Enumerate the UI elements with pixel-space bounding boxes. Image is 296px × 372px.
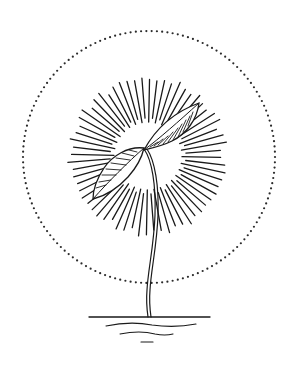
halo-dot <box>272 177 274 179</box>
halo-dot <box>269 119 271 121</box>
right-leaf <box>144 103 199 150</box>
halo-dot <box>80 262 82 264</box>
halo-dot <box>202 42 204 44</box>
halo-dot <box>119 279 121 281</box>
halo-dot <box>258 217 260 219</box>
halo-dot <box>250 82 252 84</box>
halo-dot <box>114 277 116 279</box>
halo-dot <box>135 31 137 33</box>
halo-dot <box>265 110 267 112</box>
sun-ray <box>151 194 154 230</box>
halo-dot <box>272 135 274 137</box>
halo-dot <box>211 265 213 267</box>
halo-dot <box>109 276 111 278</box>
halo-dot <box>53 74 55 76</box>
halo-dot <box>26 125 28 127</box>
halo-dot <box>22 161 24 163</box>
halo-dot <box>267 114 269 116</box>
ground-lines <box>89 317 210 342</box>
halo-dot <box>253 226 255 228</box>
halo-dot <box>56 70 58 72</box>
halo-dot <box>80 50 82 52</box>
halo-dot <box>243 74 245 76</box>
halo-dot <box>104 274 106 276</box>
halo-dot <box>273 166 275 168</box>
halo-dot <box>197 272 199 274</box>
halo-dot <box>23 172 25 174</box>
halo-dot <box>129 31 131 33</box>
halo-dot <box>85 47 87 49</box>
halo-dot <box>215 50 217 52</box>
halo-dot <box>26 187 28 189</box>
sun-ray <box>182 157 221 158</box>
halo-dot <box>182 35 184 37</box>
halo-dot <box>109 36 111 38</box>
halo-dot <box>29 197 31 199</box>
halo-dot <box>22 166 24 168</box>
halo-dot <box>68 59 70 61</box>
halo-dot <box>206 44 208 46</box>
halo-dot <box>269 192 271 194</box>
halo-dot <box>119 33 121 35</box>
halo-dot <box>23 140 25 142</box>
halo-dot <box>99 40 101 42</box>
halo-dot <box>267 197 269 199</box>
halo-dot <box>85 265 87 267</box>
halo-dot <box>124 32 126 34</box>
halo-dot <box>104 38 106 40</box>
halo-dot <box>187 36 189 38</box>
halo-dot <box>177 279 179 281</box>
halo-dot <box>211 47 213 49</box>
halo-dot <box>177 33 179 35</box>
halo-dot <box>261 100 263 102</box>
halo-dot <box>35 100 37 102</box>
halo-dot <box>273 172 275 174</box>
halo-dot <box>25 130 27 132</box>
halo-dot <box>33 105 35 107</box>
halo-dot <box>99 272 101 274</box>
sun-ray <box>172 181 202 212</box>
sun-ray <box>152 81 156 118</box>
halo-dot <box>215 262 217 264</box>
sun-ray <box>68 159 110 162</box>
halo-dot <box>40 91 42 93</box>
halo-dot <box>151 30 153 32</box>
sun-ray <box>132 189 140 227</box>
halo-dot <box>124 280 126 282</box>
halo-dot <box>263 207 265 209</box>
halo-dot <box>236 66 238 68</box>
halo-dot <box>76 52 78 54</box>
halo-dot <box>60 246 62 248</box>
halo-dot <box>140 282 142 284</box>
halo-dot <box>240 70 242 72</box>
dotted-halo-circle <box>22 30 276 284</box>
halo-dot <box>228 253 230 255</box>
halo-dot <box>90 44 92 46</box>
halo-dot <box>256 91 258 93</box>
halo-dot <box>22 156 24 158</box>
halo-dot <box>94 270 96 272</box>
halo-dot <box>224 56 226 58</box>
halo-dot <box>240 242 242 244</box>
seedling-artwork <box>0 0 296 372</box>
sun-ray <box>181 142 226 150</box>
halo-dot <box>258 95 260 97</box>
halo-dot <box>256 221 258 223</box>
halo-dot <box>140 30 142 32</box>
halo-dot <box>273 145 275 147</box>
halo-dot <box>29 114 31 116</box>
halo-dot <box>114 35 116 37</box>
halo-dot <box>129 281 131 283</box>
halo-dot <box>166 281 168 283</box>
halo-dot <box>232 250 234 252</box>
halo-dot <box>31 202 33 204</box>
halo-dot <box>49 234 51 236</box>
ground-line <box>120 332 173 335</box>
halo-dot <box>24 177 26 179</box>
halo-dot <box>60 66 62 68</box>
halo-dot <box>46 82 48 84</box>
halo-dot <box>64 62 66 64</box>
sunburst-rays <box>68 78 227 236</box>
halo-dot <box>271 182 273 184</box>
halo-dot <box>161 31 163 33</box>
